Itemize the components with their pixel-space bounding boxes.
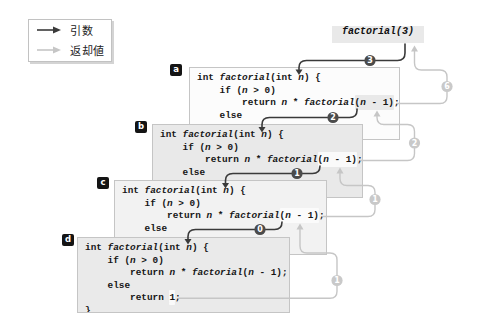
code-token: * — [287, 97, 304, 108]
box-label-b: b — [135, 121, 147, 133]
return-badge-6: 6 — [441, 81, 452, 92]
code-token: else — [197, 110, 242, 121]
svg-text:2: 2 — [412, 139, 418, 148]
code-token: else — [85, 280, 130, 291]
function-name: factorial — [229, 210, 280, 221]
code-box-d: d int factorial(int n) { if (n > 0) retu… — [62, 234, 302, 318]
code-token: * — [212, 210, 229, 221]
code-token: return — [197, 97, 281, 108]
code-token: > 0) — [173, 198, 201, 209]
return-badge-2: 2 — [409, 137, 420, 148]
code-token: ) { — [304, 72, 321, 83]
code-token: int — [160, 129, 183, 140]
code-token: - 1) — [254, 267, 282, 278]
code-token: return — [160, 154, 244, 165]
code-token: int — [85, 242, 108, 253]
code-token: > 0) — [211, 142, 239, 153]
return-arrow-icon — [36, 45, 62, 55]
recursive-call-arg-highlight: (n - 1) — [355, 97, 394, 108]
code-token: if ( — [85, 255, 130, 266]
function-name: factorial — [183, 129, 234, 140]
code-token: ) { — [267, 129, 284, 140]
code-token: ; — [394, 97, 400, 108]
svg-text:1: 1 — [334, 276, 340, 285]
code-line-3: return n * factorial(n - 1); — [85, 267, 289, 280]
code-line-1: int factorial(int n) { — [85, 242, 289, 255]
return-badge-1d: 1 — [331, 275, 342, 286]
code-token: else — [122, 223, 167, 234]
code-line-4: else — [85, 280, 289, 293]
recursive-call-arg-highlight: (n - 1) — [243, 267, 282, 278]
code-line-3: return n * factorial(n - 1); — [160, 154, 362, 167]
code-token: if ( — [122, 198, 167, 209]
call-expression-box: factorial(3) — [332, 26, 424, 43]
code-token: ; — [175, 292, 181, 303]
function-name: factorial — [220, 72, 271, 83]
recursive-call-arg-highlight: (n - 1) — [318, 154, 357, 165]
code-token: > 0) — [248, 85, 276, 96]
code-token: (int — [270, 72, 298, 83]
code-token: if ( — [160, 142, 205, 153]
code-line-2: if (n > 0) — [197, 85, 399, 98]
code-line-1: int factorial(int n) { — [122, 185, 326, 198]
code-token: int — [122, 185, 145, 196]
code-line-1: int factorial(int n) { — [197, 72, 399, 85]
code-token: int — [197, 72, 220, 83]
code-box: int factorial(int n) { if (n > 0) return… — [77, 237, 290, 313]
code-line-2: if (n > 0) — [160, 142, 362, 155]
code-token: - 1) — [291, 210, 319, 221]
code-token: (int — [158, 242, 186, 253]
code-token: return — [85, 292, 169, 303]
code-line-6: } — [85, 305, 289, 314]
code-token: else — [160, 167, 205, 178]
box-label-c: c — [97, 177, 109, 189]
box-label-a: a — [170, 64, 182, 76]
code-line-2: if (n > 0) — [122, 198, 326, 211]
box-label-d: d — [62, 234, 74, 246]
code-line-2: if (n > 0) — [85, 255, 289, 268]
code-token: ; — [282, 267, 288, 278]
code-line-3: return n * factorial(n - 1); — [122, 210, 326, 223]
function-name: factorial — [267, 154, 318, 165]
function-name: factorial — [108, 242, 159, 253]
code-token: } — [85, 305, 91, 314]
code-line-5: return 1; — [85, 292, 289, 305]
code-token: return — [122, 210, 206, 221]
code-token: ) { — [192, 242, 209, 253]
code-token: return — [85, 267, 169, 278]
code-token: ; — [319, 210, 325, 221]
code-line-1: int factorial(int n) { — [160, 129, 362, 142]
recursive-call-arg-highlight: (n - 1) — [280, 210, 319, 221]
function-name: factorial — [192, 267, 243, 278]
svg-text:6: 6 — [444, 82, 450, 91]
code-token: (int — [195, 185, 223, 196]
legend: 引数 返却値 — [28, 19, 112, 62]
code-token: * — [250, 154, 267, 165]
code-token: - 1) — [329, 154, 357, 165]
code-token: ; — [357, 154, 363, 165]
code-line-3: return n * factorial(n - 1); — [197, 97, 399, 110]
code-token: ) { — [229, 185, 246, 196]
function-name: factorial — [304, 97, 355, 108]
legend-argument-label: 引数 — [70, 22, 93, 38]
recursion-diagram: 引数 返却値 factorial(3) a int factorial(int … — [0, 0, 480, 331]
argument-arrow-icon — [36, 25, 62, 35]
code-token: if ( — [197, 85, 242, 96]
legend-row-return: 返却値 — [29, 40, 111, 60]
legend-row-argument: 引数 — [29, 20, 111, 40]
legend-return-label: 返却値 — [70, 42, 105, 58]
code-token: > 0) — [136, 255, 164, 266]
code-token: * — [175, 267, 192, 278]
code-token: (int — [233, 129, 261, 140]
code-token: - 1) — [366, 97, 394, 108]
function-name: factorial — [145, 185, 196, 196]
